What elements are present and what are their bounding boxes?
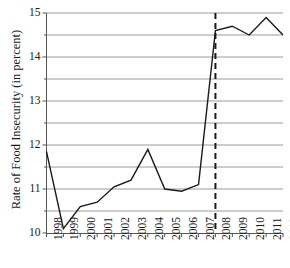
x-tick-label: 2010 bbox=[254, 217, 266, 240]
x-tick-label: 1998 bbox=[52, 217, 64, 240]
y-axis-ticks bbox=[43, 13, 47, 233]
gridlines bbox=[47, 13, 284, 211]
x-tick-label: 2009 bbox=[237, 217, 249, 240]
x-tick-label: 2002 bbox=[119, 217, 131, 240]
x-tick-label: 2005 bbox=[170, 217, 182, 240]
x-tick-label: 2011 bbox=[271, 217, 283, 240]
y-tick-label: 13 bbox=[19, 95, 41, 107]
x-tick-label: 2012 bbox=[288, 217, 290, 240]
x-tick-label: 2007 bbox=[204, 217, 216, 240]
x-tick-label: 2003 bbox=[136, 217, 148, 240]
x-tick-label: 1999 bbox=[68, 217, 80, 240]
y-tick-label: 14 bbox=[19, 51, 41, 63]
y-tick-label: 11 bbox=[19, 183, 41, 195]
x-tick-label: 2001 bbox=[102, 217, 114, 240]
y-tick-label: 10 bbox=[19, 227, 41, 239]
x-tick-label: 2006 bbox=[187, 217, 199, 240]
x-tick-label: 2008 bbox=[220, 217, 232, 240]
x-tick-label: 2004 bbox=[153, 217, 165, 240]
y-tick-label: 12 bbox=[19, 139, 41, 151]
x-tick-label: 2000 bbox=[85, 217, 97, 240]
chart-figure: Rate of Food Insecurity (in percent) 101… bbox=[0, 0, 290, 268]
y-tick-label: 15 bbox=[19, 7, 41, 19]
